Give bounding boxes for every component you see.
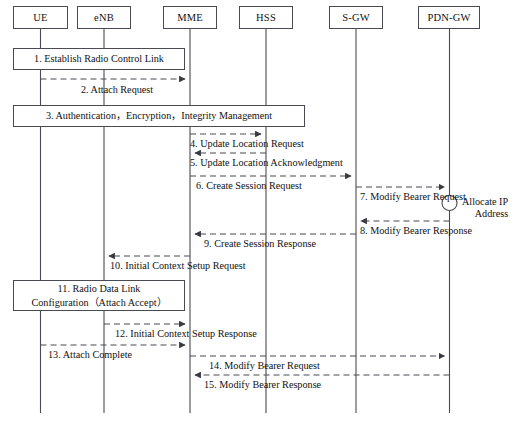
actor-header-sgw[interactable]: S-GW [329,6,383,29]
actor-label: S-GW [342,12,370,23]
actor-header-enb[interactable]: eNB [77,6,131,29]
label-msg-9[interactable]: 9. Create Session Response [204,238,316,249]
label-msg-7[interactable]: 7. Modify Bearer Request [360,191,466,202]
actor-label: UE [33,12,47,23]
label-msg-15[interactable]: 15. Modify Bearer Response [204,379,321,390]
label-msg-12[interactable]: 12. Initial Context Setup Response [115,328,257,339]
activity-box-line: 1. Establish Radio Control Link [34,52,164,65]
actor-label: eNB [94,12,114,23]
label-msg-6[interactable]: 6. Create Session Request [196,180,302,191]
note-line: Address [462,208,508,220]
activity-box-step-11[interactable]: 11. Radio Data LinkConfiguration（Attach … [13,280,185,311]
actor-label: PDN-GW [427,12,470,23]
label-msg-8[interactable]: 8. Modify Bearer Response [360,225,472,236]
label-msg-2[interactable]: 2. Attach Request [81,84,153,95]
sequence-diagram-canvas: UEeNBMMEHSSS-GWPDN-GW 1. Establish Radio… [0,0,513,423]
activity-box-step-1[interactable]: 1. Establish Radio Control Link [13,48,185,70]
label-msg-14[interactable]: 14. Modify Bearer Request [209,360,320,371]
label-msg-5[interactable]: 5. Update Location Acknowledgment [190,157,343,168]
activity-box-step-3[interactable]: 3. Authentication，Encryption，Integrity M… [13,105,305,127]
label-msg-13[interactable]: 13. Attach Complete [48,349,132,360]
activity-box-line: 11. Radio Data Link [58,282,141,295]
note-line: Allocate IP [462,196,508,208]
actor-header-mme[interactable]: MME [163,6,217,29]
activity-box-line: 3. Authentication，Encryption，Integrity M… [46,109,272,122]
actor-label: MME [177,12,203,23]
activity-box-line: Configuration（Attach Accept） [31,296,166,309]
note-allocate-ip-note: Allocate IPAddress [462,196,508,221]
actor-header-ue[interactable]: UE [13,6,68,29]
label-msg-4[interactable]: 4. Update Location Request [190,138,304,149]
actor-label: HSS [256,12,276,23]
actor-header-hss[interactable]: HSS [239,6,293,29]
actor-header-pdngw[interactable]: PDN-GW [418,6,480,29]
label-msg-10[interactable]: 10. Initial Context Setup Request [110,260,246,271]
